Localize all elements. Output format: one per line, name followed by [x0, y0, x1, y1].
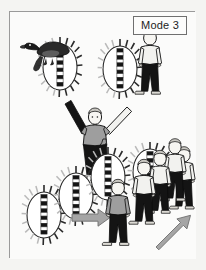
figure-panel: Mode 3 — [9, 11, 195, 258]
figure-artwork — [10, 12, 196, 259]
mode-label-box: Mode 3 — [133, 16, 187, 35]
mode-label-text: Mode 3 — [141, 19, 179, 31]
illustration-canvas: Mode 3 — [0, 0, 206, 270]
